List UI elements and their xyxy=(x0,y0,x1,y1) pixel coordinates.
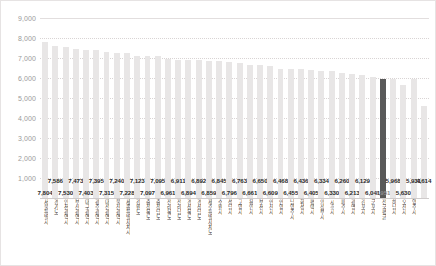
bar-series: 7,8047,5867,5307,4737,4037,3957,3157,240… xyxy=(40,18,429,198)
bar[interactable]: 6,436 xyxy=(298,69,304,198)
bar-slot: 6,892 xyxy=(194,18,204,198)
bar[interactable]: 7,530 xyxy=(63,47,69,198)
y-axis-tick: 7,000 xyxy=(18,55,36,62)
x-axis-slot: 부천시 xyxy=(255,199,265,257)
bar-slot: 7,586 xyxy=(50,18,60,198)
bar[interactable]: 6,892 xyxy=(196,60,202,198)
x-axis-slot: 의정부시 xyxy=(316,199,326,257)
bar-slot: 6,796 xyxy=(224,18,234,198)
y-axis-tick: 9,000 xyxy=(18,15,36,22)
bar-slot: 6,911 xyxy=(173,18,183,198)
x-axis-label: 안양시 xyxy=(278,199,284,255)
bar-slot: 7,315 xyxy=(101,18,111,198)
bar[interactable]: 7,395 xyxy=(93,50,99,198)
bar[interactable]: 6,041 xyxy=(370,77,376,198)
x-axis-slot: 인천광역시 xyxy=(60,199,70,257)
x-axis-slot: 광명시 xyxy=(347,199,357,257)
x-axis-label: 서울특별시 xyxy=(42,199,48,255)
y-axis: 9,0008,0007,0006,0005,0004,0003,0002,000… xyxy=(0,18,36,198)
bar-slot: 6,845 xyxy=(214,18,224,198)
bar[interactable]: 6,845 xyxy=(216,61,222,198)
bar-slot: 6,763 xyxy=(234,18,244,198)
bar[interactable]: 6,763 xyxy=(237,63,243,198)
bar-slot: 6,661 xyxy=(245,18,255,198)
bar-slot: 4,614 xyxy=(419,18,429,198)
bar-slot: 7,240 xyxy=(112,18,122,198)
x-axis-slot: 용인시 xyxy=(245,199,255,257)
x-axis-slot: 파주시 xyxy=(337,199,347,257)
bar[interactable]: 6,334 xyxy=(318,71,324,198)
bar-slot: 6,330 xyxy=(327,18,337,198)
bar-slot: 7,123 xyxy=(132,18,142,198)
y-axis-tick: 1,000 xyxy=(18,175,36,182)
x-axis-label: 부산광역시 xyxy=(73,199,79,255)
x-axis-label: 경상남도 xyxy=(196,199,202,255)
bar[interactable]: 7,095 xyxy=(155,56,161,198)
bar-slot: 5,931 xyxy=(408,18,418,198)
bar-slot: 6,609 xyxy=(265,18,275,198)
x-axis-label: 강원도 xyxy=(134,199,140,255)
x-axis-slot: 안양시 xyxy=(275,199,285,257)
x-axis-label: 평택시 xyxy=(308,199,314,255)
x-axis-slot: 시흥시 xyxy=(327,199,337,257)
bar[interactable]: 7,586 xyxy=(52,46,58,198)
bar[interactable]: 7,240 xyxy=(114,53,120,198)
x-axis-label: 인천광역시 xyxy=(63,199,69,255)
bar-slot: 6,213 xyxy=(347,18,357,198)
x-axis-slot: 대전광역시 xyxy=(101,199,111,257)
x-axis-label: 하남시 xyxy=(390,199,396,255)
bar-slot: 6,334 xyxy=(316,18,326,198)
x-axis-slot: 전라남도 xyxy=(173,199,183,257)
bar[interactable]: 6,129 xyxy=(359,75,365,198)
x-axis-slot: 세종특별자치시 xyxy=(122,199,132,257)
bar[interactable]: 4,614 xyxy=(421,106,427,198)
y-axis-tick: 6,000 xyxy=(18,75,36,82)
bar[interactable]: 6,911 xyxy=(175,60,181,198)
x-axis-label: 파주시 xyxy=(339,199,345,255)
x-axis-label: 광주광역시 xyxy=(93,199,99,255)
bar[interactable]: 6,260 xyxy=(339,73,345,198)
y-axis-tick: 5,000 xyxy=(18,95,36,102)
bar[interactable]: 7,804 xyxy=(42,42,48,198)
bar-slot: 7,395 xyxy=(91,18,101,198)
bar[interactable]: 6,468 xyxy=(278,69,284,198)
bar-slot: 7,097 xyxy=(142,18,152,198)
x-axis-label: 부천시 xyxy=(257,199,263,255)
x-axis-label: 오산시 xyxy=(401,199,407,255)
x-axis-label: 대전광역시 xyxy=(104,199,110,255)
bar-slot: 5,630 xyxy=(398,18,408,198)
x-axis-label: 성남시 xyxy=(227,199,233,255)
bar[interactable]: 7,123 xyxy=(134,56,140,198)
x-axis-slot: 하남시 xyxy=(388,199,398,257)
bar[interactable]: 7,473 xyxy=(73,49,79,198)
x-axis-slot: 화성시 xyxy=(296,199,306,257)
x-axis-label: 경상북도 xyxy=(186,199,192,255)
bar-slot: 5,968 xyxy=(388,18,398,198)
x-axis-label: 시흥시 xyxy=(329,199,335,255)
x-axis-slot: 전국평균 xyxy=(378,199,388,257)
bar[interactable]: 6,650 xyxy=(257,65,263,198)
x-axis: 서울특별시경기도인천광역시부산광역시대구광역시광주광역시대전광역시울산광역시세종… xyxy=(40,199,429,257)
x-axis-label: 경기도 xyxy=(53,199,59,255)
x-axis-label: 안산시 xyxy=(267,199,273,255)
x-axis-label: 남양주시 xyxy=(288,199,294,255)
x-axis-slot: 오산시 xyxy=(398,199,408,257)
x-axis-slot: 안산시 xyxy=(265,199,275,257)
y-axis-tick: 3,000 xyxy=(18,135,36,142)
bar-slot: 7,530 xyxy=(60,18,70,198)
bar-slot: 7,403 xyxy=(81,18,91,198)
x-axis-slot: 제주특별자치도 xyxy=(204,199,214,257)
x-axis-label: 고양시 xyxy=(237,199,243,255)
bar[interactable]: 7,403 xyxy=(83,50,89,198)
x-axis-label: 수원시 xyxy=(216,199,222,255)
x-axis-label: 군포시 xyxy=(370,199,376,255)
bar[interactable]: 5,968 xyxy=(390,79,396,198)
x-axis-slot: 강원도 xyxy=(132,199,142,257)
bar-slot: 7,473 xyxy=(71,18,81,198)
x-axis-slot: 충청남도 xyxy=(153,199,163,257)
bar-slot: 6,455 xyxy=(286,18,296,198)
x-axis-label: 광명시 xyxy=(349,199,355,255)
x-axis-slot: 경기도 xyxy=(50,199,60,257)
bar-slot: 6,260 xyxy=(337,18,347,198)
x-axis-slot: 군포시 xyxy=(368,199,378,257)
